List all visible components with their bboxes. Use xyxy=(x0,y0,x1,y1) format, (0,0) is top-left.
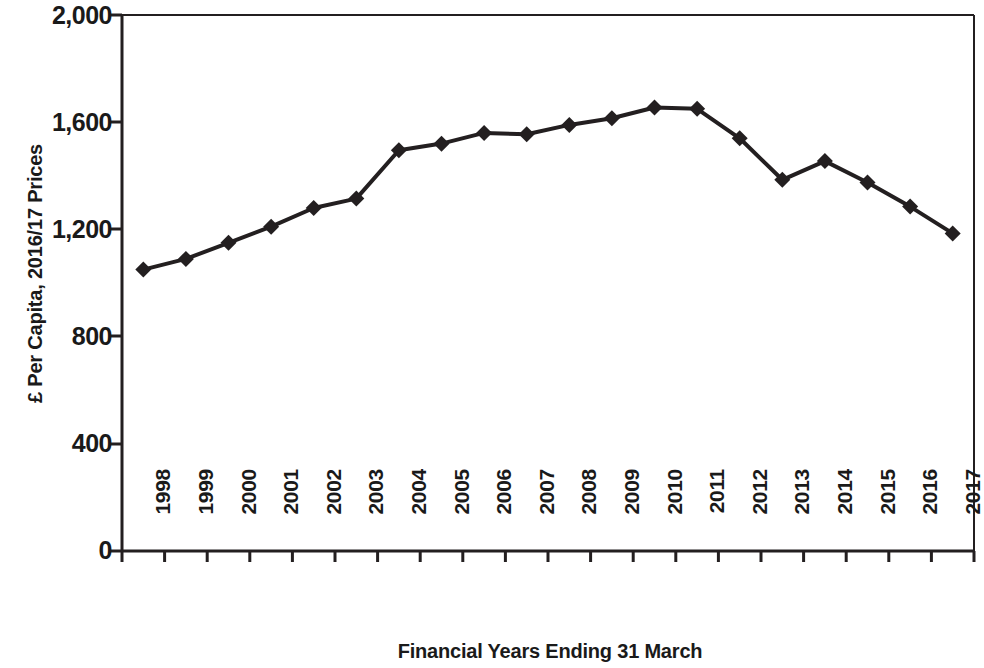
x-tick-label-2015: 2015 xyxy=(877,469,898,559)
x-tick-label-2013: 2013 xyxy=(791,469,812,559)
x-tick-label-2002: 2002 xyxy=(323,469,344,559)
x-tick-label-2016: 2016 xyxy=(919,469,940,559)
x-tick-label-1999: 1999 xyxy=(195,469,216,559)
x-tick-label-1998: 1998 xyxy=(152,469,173,559)
x-tick-label-2014: 2014 xyxy=(834,469,855,559)
x-tick-label-2003: 2003 xyxy=(365,469,386,559)
x-tick-label-2011: 2011 xyxy=(706,469,727,559)
x-tick-label-2004: 2004 xyxy=(408,469,429,559)
x-tick-label-2005: 2005 xyxy=(451,469,472,559)
x-tick-label-2000: 2000 xyxy=(238,469,259,559)
x-tick-label-2017: 2017 xyxy=(962,469,983,559)
x-tick-label-2012: 2012 xyxy=(749,469,770,559)
x-axis-title: Financial Years Ending 31 March xyxy=(122,640,978,663)
x-tick-label-2007: 2007 xyxy=(536,469,557,559)
x-tick-label-2001: 2001 xyxy=(280,469,301,559)
x-tick-label-2010: 2010 xyxy=(664,469,685,559)
x-tick-label-2008: 2008 xyxy=(578,469,599,559)
x-tick-label-2006: 2006 xyxy=(493,469,514,559)
x-tick-label-2009: 2009 xyxy=(621,469,642,559)
